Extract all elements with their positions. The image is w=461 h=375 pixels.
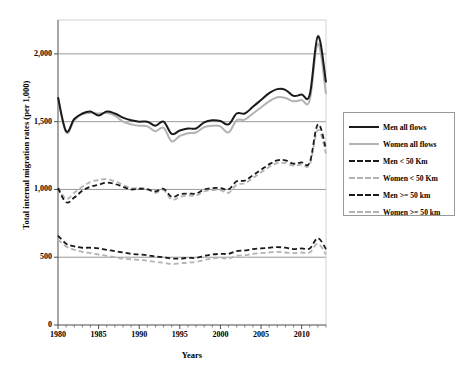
x-tick-label: 2005 xyxy=(241,330,281,339)
y-axis-title: Total internal migration rates (per 1,00… xyxy=(21,55,31,255)
series-line xyxy=(58,36,326,134)
y-tick-label: 0 xyxy=(16,320,52,329)
y-tick-label: 2,000 xyxy=(16,49,52,58)
x-tick-label: 2000 xyxy=(200,330,240,339)
x-tick-label: 1990 xyxy=(119,330,159,339)
legend-swatch xyxy=(349,190,379,200)
legend-swatch xyxy=(349,122,379,132)
legend-label: Men < 50 Km xyxy=(383,157,428,166)
x-tick-label: 1985 xyxy=(79,330,119,339)
legend-swatch xyxy=(349,173,379,183)
legend-swatch xyxy=(349,139,379,149)
legend-item: Men all flows xyxy=(349,119,450,135)
series-line xyxy=(58,44,326,142)
legend-item: Women >= 50 km xyxy=(349,204,450,220)
legend-item: Women all flows xyxy=(349,136,450,152)
legend-swatch xyxy=(349,207,379,217)
x-tick-label: 1995 xyxy=(160,330,200,339)
x-tick-label: 2010 xyxy=(282,330,322,339)
y-tick-label: 500 xyxy=(16,252,52,261)
legend-item: Men >= 50 km xyxy=(349,187,450,203)
legend-item: Women < 50 Km xyxy=(349,170,450,186)
legend-label: Men all flows xyxy=(383,123,426,132)
migration-rates-chart: Total internal migration rates (per 1,00… xyxy=(0,0,461,375)
legend-item: Men < 50 Km xyxy=(349,153,450,169)
chart-legend: Men all flowsWomen all flowsMen < 50 KmW… xyxy=(343,112,455,216)
y-tick-label: 1,500 xyxy=(16,117,52,126)
legend-label: Men >= 50 km xyxy=(383,191,430,200)
series-line xyxy=(58,240,326,264)
x-axis-title: Years xyxy=(58,350,326,360)
legend-label: Women < 50 Km xyxy=(383,174,438,183)
legend-label: Women all flows xyxy=(383,140,437,149)
legend-swatch xyxy=(349,156,379,166)
y-tick-label: 1,000 xyxy=(16,184,52,193)
legend-label: Women >= 50 km xyxy=(383,208,440,217)
x-tick-label: 1980 xyxy=(38,330,78,339)
